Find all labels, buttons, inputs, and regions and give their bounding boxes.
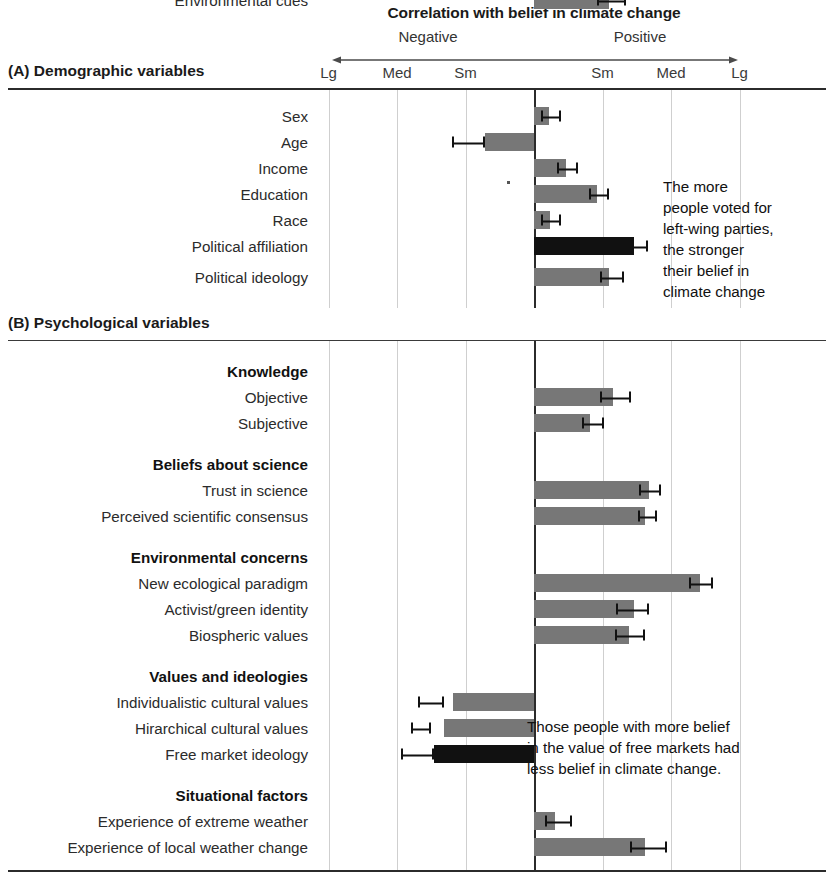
bar-political-affiliation xyxy=(534,237,634,255)
error-bar-age xyxy=(452,137,485,148)
panel-a-top-rule xyxy=(8,88,826,90)
error-bar-activist-green-identity xyxy=(616,604,649,615)
row-label-political-affiliation: Political affiliation xyxy=(192,238,308,255)
error-bar-education xyxy=(589,189,610,200)
row-label-subjective: Subjective xyxy=(238,415,308,432)
error-bar-income xyxy=(557,163,578,174)
group-label-beliefs-about-science: Beliefs about science xyxy=(153,456,308,473)
gridline-3 xyxy=(740,340,741,870)
bar-free-market-ideology xyxy=(434,745,534,763)
gridline--3 xyxy=(329,340,330,870)
bar-political-ideology xyxy=(534,268,609,286)
error-bar-experience-of-extreme-weather xyxy=(545,816,572,827)
error-bar-political-affiliation xyxy=(630,241,648,252)
panel-b-heading: (B) Psychological variables xyxy=(8,314,210,332)
axis-tick-0: Lg xyxy=(320,64,337,81)
row-label-income: Income xyxy=(258,160,308,177)
group-label-situational-factors: Situational factors xyxy=(176,787,309,804)
bar-hirarchical-cultural-values xyxy=(444,719,534,737)
direction-label-positive: Positive xyxy=(614,28,667,45)
row-label-activist-green-identity: Activist/green identity xyxy=(164,601,308,618)
gridline--1 xyxy=(466,88,467,308)
axis-tick-3: Sm xyxy=(591,64,614,81)
row-label-objective: Objective xyxy=(245,389,308,406)
bar-new-ecological-paradigm xyxy=(534,574,700,592)
annotation-free-market: Those people with more belief in the val… xyxy=(527,716,740,779)
row-label-education: Education xyxy=(240,186,308,203)
row-label-sex: Sex xyxy=(282,108,308,125)
bar-education xyxy=(534,185,597,203)
row-label-experience-of-extreme-weather: Experience of extreme weather xyxy=(98,813,308,830)
print-speck xyxy=(507,181,510,184)
bar-individualistic-cultural-values xyxy=(453,693,534,711)
row-label-hirarchical-cultural-values: Hirarchical cultural values xyxy=(135,720,308,737)
bar-trust-in-science xyxy=(534,481,649,499)
figure-root: Correlation with belief in climate chang… xyxy=(0,0,832,894)
gridline--3 xyxy=(329,88,330,308)
axis-tick-5: Lg xyxy=(731,64,748,81)
error-bar-experience-of-local-weather-change xyxy=(630,842,667,853)
direction-label-negative: Negative xyxy=(398,28,457,45)
row-label-trust-in-science: Trust in science xyxy=(202,482,308,499)
error-bar-political-ideology xyxy=(600,272,625,283)
bar-perceived-scientific-consensus xyxy=(534,507,645,525)
error-bar-trust-in-science xyxy=(639,485,661,496)
error-bar-race xyxy=(541,215,562,226)
error-bar-hirarchical-cultural-values xyxy=(411,723,432,734)
panel-a-heading: (A) Demographic variables xyxy=(8,62,204,80)
row-label-environmental-cues: Environmental cues xyxy=(175,0,308,9)
row-label-age: Age xyxy=(281,134,308,151)
error-bar-sex xyxy=(541,111,562,122)
error-bar-new-ecological-paradigm xyxy=(689,578,714,589)
axis-tick-4: Med xyxy=(656,64,685,81)
annotation-political: The more people voted for left-wing part… xyxy=(663,176,774,302)
group-label-environmental-concerns: Environmental concerns xyxy=(131,549,308,566)
error-bar-perceived-scientific-consensus xyxy=(638,511,657,522)
gridline--2 xyxy=(397,340,398,870)
row-label-race: Race xyxy=(273,212,308,229)
bar-age xyxy=(485,133,534,151)
row-label-individualistic-cultural-values: Individualistic cultural values xyxy=(116,694,308,711)
error-bar-objective xyxy=(600,392,632,403)
row-label-political-ideology: Political ideology xyxy=(195,269,308,286)
axis-tick-1: Med xyxy=(382,64,411,81)
error-bar-biospheric-values xyxy=(615,630,645,641)
row-label-perceived-scientific-consensus: Perceived scientific consensus xyxy=(101,508,308,525)
error-bar-subjective xyxy=(582,418,604,429)
error-bar-free-market-ideology xyxy=(401,749,434,760)
gridline-2 xyxy=(671,340,672,870)
group-label-values-and-ideologies: Values and ideologies xyxy=(149,668,308,685)
group-label-knowledge: Knowledge xyxy=(227,363,308,380)
error-bar-individualistic-cultural-values xyxy=(418,697,444,708)
row-label-new-ecological-paradigm: New ecological paradigm xyxy=(138,575,308,592)
gridline--1 xyxy=(466,340,467,870)
row-label-biospheric-values: Biospheric values xyxy=(189,627,308,644)
row-label-experience-of-local-weather-change: Experience of local weather change xyxy=(67,839,308,856)
axis-tick-2: Sm xyxy=(454,64,477,81)
figure-bottom-rule xyxy=(8,870,826,872)
bar-experience-of-local-weather-change xyxy=(534,838,645,856)
panel-b-top-rule xyxy=(8,340,826,341)
error-bar-environmental-cues xyxy=(597,0,626,6)
gridline--2 xyxy=(397,88,398,308)
row-label-free-market-ideology: Free market ideology xyxy=(165,746,308,763)
